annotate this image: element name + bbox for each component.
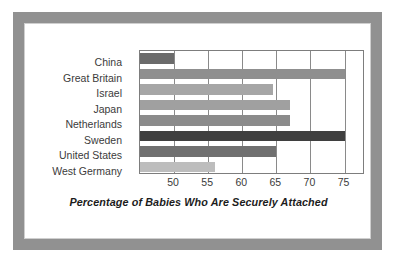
y-axis-label: United States [59, 148, 122, 163]
bar [140, 84, 273, 95]
x-axis-tick: 75 [338, 176, 350, 188]
y-axis-category-labels: ChinaGreat BritainIsraelJapanNetherlands… [25, 55, 126, 173]
bar [140, 100, 290, 111]
y-axis-label: Israel [96, 86, 122, 101]
x-axis-tick-labels: 505560657075 [139, 176, 364, 192]
bar-row [140, 98, 365, 113]
bar-row [140, 144, 365, 159]
bar [140, 115, 290, 126]
y-axis-label: China [95, 55, 122, 70]
frame-inner-border: ChinaGreat BritainIsraelJapanNetherlands… [24, 23, 371, 239]
bar-row [140, 129, 365, 144]
x-axis-tick: 60 [235, 176, 247, 188]
bar-row [140, 113, 365, 128]
plot-area [139, 50, 364, 174]
bar-row [140, 51, 365, 66]
bar [140, 146, 276, 157]
bar [140, 131, 345, 142]
plot-inner [140, 51, 363, 173]
chart-figure: ChinaGreat BritainIsraelJapanNetherlands… [0, 0, 395, 264]
x-axis-tick: 65 [270, 176, 282, 188]
x-axis-tick: 50 [167, 176, 179, 188]
bar-row [140, 160, 365, 175]
y-axis-label: West Germany [52, 164, 122, 179]
x-axis-title: Percentage of Babies Who Are Securely At… [25, 196, 372, 208]
x-axis-tick: 70 [304, 176, 316, 188]
bar-row [140, 82, 365, 97]
bar [140, 53, 174, 64]
x-axis-tick: 55 [201, 176, 213, 188]
y-axis-label: Netherlands [65, 117, 122, 132]
y-axis-label: Japan [93, 102, 122, 117]
bar [140, 69, 345, 80]
bar [140, 162, 215, 173]
bar-row [140, 67, 365, 82]
picture-frame: ChinaGreat BritainIsraelJapanNetherlands… [13, 12, 382, 250]
y-axis-label: Sweden [84, 133, 122, 148]
chart-area: ChinaGreat BritainIsraelJapanNetherlands… [25, 24, 372, 240]
y-axis-label: Great Britain [63, 71, 122, 86]
